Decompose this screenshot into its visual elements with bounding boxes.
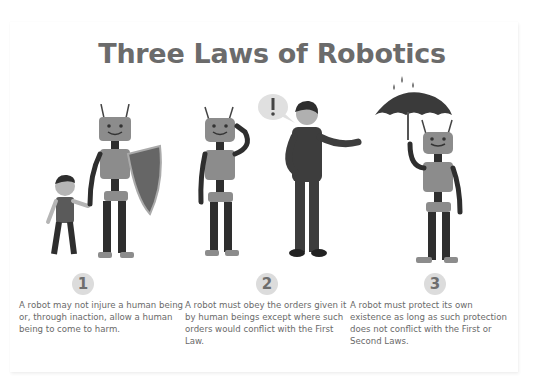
robot-figure [201, 107, 248, 256]
law-3-text: A robot must protect its own existence a… [350, 299, 515, 347]
robot-shield-child-illustration [40, 104, 165, 264]
man-figure [289, 101, 358, 257]
child-figure [48, 175, 88, 254]
robot-figure [410, 120, 460, 263]
law-2-text: A robot must obey the orders given it by… [185, 299, 350, 347]
exclamation-speech-bubble [258, 94, 295, 123]
shield [128, 146, 161, 214]
rain-drops [393, 76, 414, 90]
law-3-number-badge: 3 [424, 273, 446, 295]
law-1-text: A robot may not injure a human being or,… [19, 299, 184, 335]
law-2-number-badge: 2 [256, 273, 278, 295]
page-title: Three Laws of Robotics [0, 38, 544, 69]
robot-umbrella-illustration [370, 72, 480, 267]
robot-man-order-illustration [195, 92, 365, 262]
law-1-number-badge: 1 [72, 273, 94, 295]
robot-figure [90, 104, 134, 258]
